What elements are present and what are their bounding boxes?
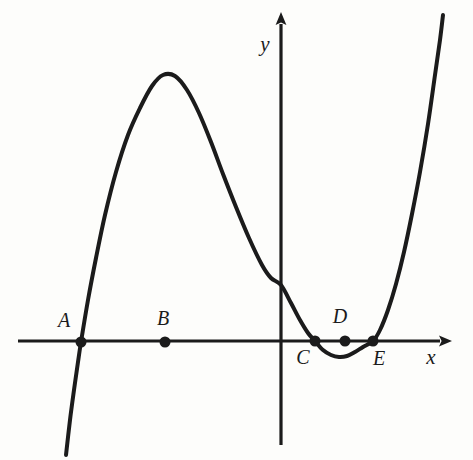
y-axis-label: y (258, 32, 270, 56)
point-marker-a (76, 337, 87, 348)
coordinate-plane-svg: ABCDE y x (0, 0, 473, 460)
marked-points-group: ABCDE (56, 305, 385, 369)
point-label-a: A (56, 309, 71, 331)
graph-figure: ABCDE y x (0, 0, 473, 460)
curve-group (66, 15, 443, 455)
function-curve (66, 15, 443, 455)
axes-group (18, 24, 440, 445)
x-axis-label: x (425, 345, 436, 369)
point-label-d: D (332, 305, 348, 327)
point-marker-d (340, 336, 351, 347)
point-marker-e (368, 336, 379, 347)
point-marker-b (160, 337, 171, 348)
point-marker-c (310, 336, 321, 347)
point-label-c: C (296, 346, 310, 368)
point-label-b: B (157, 307, 169, 329)
point-label-e: E (372, 347, 385, 369)
